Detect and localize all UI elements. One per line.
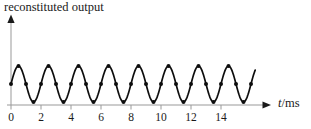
- sample-dot: [54, 82, 58, 86]
- x-tick-label: 12: [185, 111, 197, 123]
- x-tick-label: 0: [8, 111, 14, 123]
- sample-dot: [227, 64, 231, 68]
- x-tick-label: 8: [128, 111, 134, 123]
- x-tick-label: 14: [215, 111, 227, 123]
- sample-dot: [69, 82, 73, 86]
- sample-dot: [137, 64, 141, 68]
- sample-dot: [47, 64, 51, 68]
- x-tick-label: 6: [98, 111, 104, 123]
- x-tick-label: 4: [68, 111, 74, 123]
- sample-dot: [32, 100, 36, 104]
- sample-dot: [62, 100, 66, 104]
- sample-dot: [242, 100, 246, 104]
- sample-dot: [152, 100, 156, 104]
- sample-dot: [122, 100, 126, 104]
- x-axis-label: t/ms: [278, 96, 300, 111]
- sine-curve: [11, 66, 255, 102]
- x-axis-unit: /ms: [281, 96, 299, 110]
- sample-dot: [249, 82, 253, 86]
- y-axis-arrowhead: [7, 15, 14, 24]
- sample-dot: [99, 82, 103, 86]
- sample-dot: [189, 82, 193, 86]
- figure-title: reconstituted output: [4, 0, 104, 15]
- sample-dot: [234, 82, 238, 86]
- sample-dot: [174, 82, 178, 86]
- sample-dot: [107, 64, 111, 68]
- sample-dot: [212, 100, 216, 104]
- sample-dot: [39, 82, 43, 86]
- waveform-plot: 02468101214: [0, 0, 311, 129]
- sample-dot: [182, 100, 186, 104]
- sample-dot: [77, 64, 81, 68]
- sample-dot: [24, 82, 28, 86]
- sample-dot: [129, 82, 133, 86]
- x-tick-label: 10: [155, 111, 167, 123]
- sample-dot: [144, 82, 148, 86]
- sample-dot: [17, 64, 21, 68]
- sample-dot: [204, 82, 208, 86]
- sample-dot: [167, 64, 171, 68]
- x-axis-arrowhead: [263, 101, 272, 108]
- sample-dot: [219, 82, 223, 86]
- sample-dot: [84, 82, 88, 86]
- sample-dot: [197, 64, 201, 68]
- x-tick-label: 2: [38, 111, 44, 123]
- sample-dot: [9, 82, 13, 86]
- sample-dot: [114, 82, 118, 86]
- sample-dot: [159, 82, 163, 86]
- reconstituted-output-figure: 02468101214 reconstituted output t/ms: [0, 0, 311, 129]
- sample-dot: [92, 100, 96, 104]
